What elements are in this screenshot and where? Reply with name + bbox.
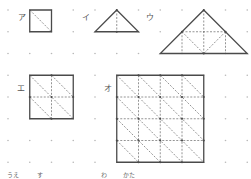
footer-text-ue: うえ xyxy=(7,171,19,179)
grid-dot xyxy=(138,9,140,11)
grid-dot xyxy=(225,161,227,163)
vertex-point xyxy=(159,140,161,142)
vertex-point xyxy=(138,140,140,142)
dashed-line xyxy=(52,75,74,97)
vertex-point xyxy=(203,96,205,98)
grid-dot xyxy=(225,140,227,142)
footer-text-su: す xyxy=(37,171,43,179)
dashed-line xyxy=(117,141,139,163)
grid-dot xyxy=(246,96,248,98)
vertex-point xyxy=(138,74,140,76)
shape-label-u: ウ xyxy=(146,13,154,22)
dashed-line xyxy=(30,97,52,119)
grid-dot xyxy=(94,53,96,55)
vertex-point xyxy=(116,96,118,98)
geometry-figure: ア イ ウ エ オ うえ す わ かた xyxy=(0,0,251,179)
grid-dot xyxy=(94,140,96,142)
vertex-point xyxy=(138,96,140,98)
grid-dot xyxy=(94,9,96,11)
vertex-point xyxy=(159,161,161,163)
grid-dot xyxy=(72,53,74,55)
vertex-point xyxy=(203,118,205,120)
dashed-line xyxy=(30,10,52,32)
footer-text-wa: わ xyxy=(101,171,107,178)
vertex-point xyxy=(116,118,118,120)
grid-dot xyxy=(94,74,96,76)
vertex-point xyxy=(159,118,161,120)
grid-dot xyxy=(159,9,161,11)
grid-dot xyxy=(51,161,53,163)
dashed-line xyxy=(117,97,182,162)
grid-dot xyxy=(51,53,53,55)
grid-dot xyxy=(7,53,9,55)
grid-dot xyxy=(94,96,96,98)
grid-dot xyxy=(29,161,31,163)
footer-text-kata: かた xyxy=(123,171,135,179)
vertex-point xyxy=(159,96,161,98)
shape-i xyxy=(95,9,139,33)
grid-dot xyxy=(246,118,248,120)
grid-dot xyxy=(7,161,9,163)
grid-dot xyxy=(181,9,183,11)
grid-dot xyxy=(246,31,248,33)
grid-dot xyxy=(72,9,74,11)
grid-dot xyxy=(246,161,248,163)
vertex-point xyxy=(181,140,183,142)
shape-a xyxy=(30,10,52,32)
grid-dot xyxy=(51,140,53,142)
grid-dot xyxy=(94,118,96,120)
grid-dot xyxy=(116,53,118,55)
grid-dot xyxy=(159,31,161,33)
vertex-point xyxy=(51,118,53,120)
vertex-point xyxy=(138,161,140,163)
grid-dot xyxy=(225,74,227,76)
vertex-point xyxy=(181,96,183,98)
dashed-line xyxy=(204,32,226,54)
grid-dot xyxy=(246,74,248,76)
vertex-point xyxy=(203,53,205,55)
vertex-point xyxy=(181,31,183,33)
dashed-line xyxy=(182,75,204,97)
shapes-layer xyxy=(29,9,248,163)
vertex-point xyxy=(181,161,183,163)
grid-dot xyxy=(7,96,9,98)
grid-dot xyxy=(29,140,31,142)
vertex-point xyxy=(225,31,227,33)
vertex-point xyxy=(203,9,205,11)
grid-dot xyxy=(7,140,9,142)
shape-u xyxy=(160,9,247,55)
vertex-point xyxy=(51,74,53,76)
shape-label-e: エ xyxy=(17,84,25,93)
shape-label-i: イ xyxy=(82,13,90,22)
grid-dot xyxy=(225,9,227,11)
dashed-line xyxy=(139,75,204,140)
grid-dot xyxy=(225,96,227,98)
shape-o xyxy=(116,74,205,163)
grid-dot xyxy=(94,161,96,163)
vertex-point xyxy=(203,140,205,142)
grid-dot xyxy=(72,140,74,142)
vertex-point xyxy=(159,74,161,76)
grid-dot xyxy=(29,53,31,55)
vertex-point xyxy=(29,96,31,98)
grid-dot xyxy=(246,9,248,11)
vertex-point xyxy=(138,118,140,120)
shape-label-o: オ xyxy=(104,84,112,93)
grid-dot xyxy=(7,31,9,33)
vertex-point xyxy=(51,96,53,98)
vertex-point xyxy=(72,96,74,98)
grid-dot xyxy=(72,31,74,33)
shape-e xyxy=(29,74,75,120)
shape-label-a: ア xyxy=(18,13,26,22)
vertex-point xyxy=(181,118,183,120)
grid-dot xyxy=(7,74,9,76)
grid-dot xyxy=(225,118,227,120)
vertex-point xyxy=(181,74,183,76)
vertex-point xyxy=(116,9,118,11)
vertex-point xyxy=(116,140,118,142)
dashed-line xyxy=(182,32,204,54)
grid-dot xyxy=(138,53,140,55)
grid-dot xyxy=(72,161,74,163)
grid-dot xyxy=(246,140,248,142)
grid-dot xyxy=(7,9,9,11)
